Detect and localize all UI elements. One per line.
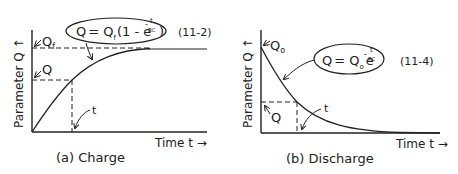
discharge-q-arrow-icon bbox=[265, 106, 270, 114]
discharge-equation: Q= Qoe - t RC bbox=[322, 46, 376, 71]
svg-text:): ) bbox=[159, 24, 164, 39]
discharge-panel: Qo Q t Q= Qoe - t RC (11-4) Parameter Q … bbox=[241, 30, 448, 166]
charge-q-arrow-icon bbox=[35, 71, 41, 77]
discharge-y-axis-label: Parameter Q ↑ bbox=[241, 38, 255, 128]
svg-text:RC: RC bbox=[148, 27, 156, 33]
charge-qf-label: Qf bbox=[42, 34, 55, 51]
charge-t-label: t bbox=[92, 104, 97, 117]
charge-equation-pointer-icon bbox=[86, 43, 92, 59]
charge-t-arrow-icon bbox=[75, 110, 90, 128]
charge-y-axis-label: Parameter Q ↑ bbox=[12, 38, 26, 128]
charge-q-label: Q bbox=[42, 62, 52, 77]
charge-equation: Q= Qf(1 - e - t RC ) bbox=[76, 17, 164, 42]
discharge-equation-number: (11-4) bbox=[400, 55, 434, 68]
discharge-t-label: t bbox=[324, 102, 329, 115]
discharge-caption: (b) Discharge bbox=[286, 151, 374, 166]
svg-text:t: t bbox=[150, 17, 153, 25]
charge-qf-arrow-icon bbox=[35, 40, 41, 46]
discharge-x-axis-label: Time t → bbox=[395, 137, 448, 151]
charge-equation-number: (11-2) bbox=[178, 26, 212, 39]
charge-caption: (a) Charge bbox=[56, 150, 125, 165]
discharge-equation-pointer-icon bbox=[284, 60, 314, 79]
discharge-q-label: Q bbox=[271, 110, 281, 125]
svg-text:-: - bbox=[364, 50, 367, 59]
svg-text:RC: RC bbox=[368, 56, 376, 62]
svg-text:Q= Qf(1 - e: Q= Qf(1 - e bbox=[76, 24, 151, 42]
rc-charge-discharge-diagram: Qf Q t Q= Qf(1 - e - t RC ) (11-2) Param… bbox=[0, 0, 458, 174]
charge-panel: Qf Q t Q= Qf(1 - e - t RC ) (11-2) Param… bbox=[12, 17, 212, 165]
svg-text:t: t bbox=[370, 46, 373, 54]
discharge-t-arrow-icon bbox=[302, 109, 321, 129]
charge-x-axis-label: Time t → bbox=[154, 136, 207, 150]
discharge-q0-label: Qo bbox=[270, 38, 285, 55]
